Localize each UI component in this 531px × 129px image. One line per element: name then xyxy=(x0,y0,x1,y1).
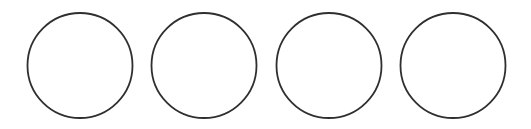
circle-4 xyxy=(401,13,506,118)
diagram-canvas xyxy=(0,0,531,129)
circle-1 xyxy=(28,13,133,118)
circle-3 xyxy=(277,13,382,118)
circle-2 xyxy=(152,13,257,118)
circles-figure xyxy=(0,0,531,129)
